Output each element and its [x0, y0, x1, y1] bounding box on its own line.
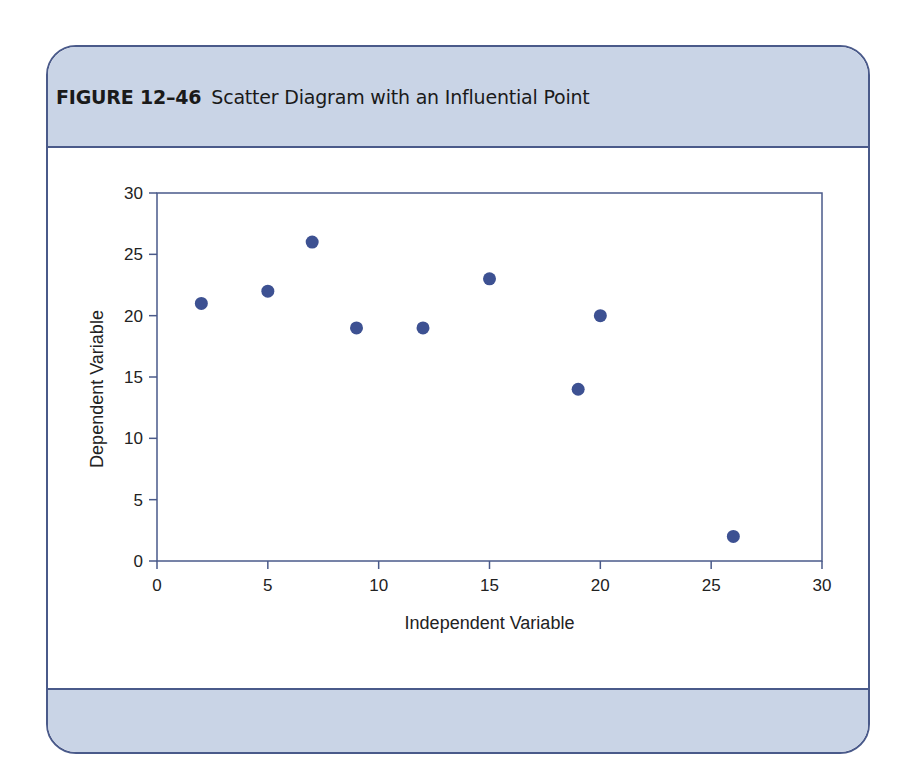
- plot-frame: [157, 193, 822, 561]
- y-tick-label: 0: [134, 552, 143, 571]
- data-point: [594, 309, 607, 322]
- y-tick-label: 25: [124, 245, 143, 264]
- data-point: [261, 285, 274, 298]
- data-point: [350, 321, 363, 334]
- y-tick-label: 30: [124, 184, 143, 203]
- data-point: [195, 297, 208, 310]
- x-tick-label: 5: [263, 576, 272, 595]
- y-axis-title: Dependent Variable: [87, 310, 107, 468]
- y-tick-label: 5: [134, 491, 143, 510]
- y-tick-label: 10: [124, 429, 143, 448]
- scatter-chart: 051015202530051015202530 Independent Var…: [0, 0, 905, 783]
- data-points: [195, 236, 740, 543]
- x-tick-label: 20: [591, 576, 610, 595]
- chart-canvas: 051015202530051015202530 Independent Var…: [0, 0, 905, 783]
- data-point: [306, 236, 319, 249]
- x-tick-label: 10: [369, 576, 388, 595]
- data-point: [572, 383, 585, 396]
- x-axis-title: Independent Variable: [405, 613, 575, 633]
- y-tick-label: 15: [124, 368, 143, 387]
- data-point: [483, 272, 496, 285]
- data-point: [727, 530, 740, 543]
- y-tick-label: 20: [124, 307, 143, 326]
- x-tick-label: 0: [152, 576, 161, 595]
- x-tick-label: 25: [702, 576, 721, 595]
- data-point: [417, 321, 430, 334]
- chart-axes: 051015202530051015202530: [124, 184, 831, 595]
- x-tick-label: 30: [813, 576, 832, 595]
- x-tick-label: 15: [480, 576, 499, 595]
